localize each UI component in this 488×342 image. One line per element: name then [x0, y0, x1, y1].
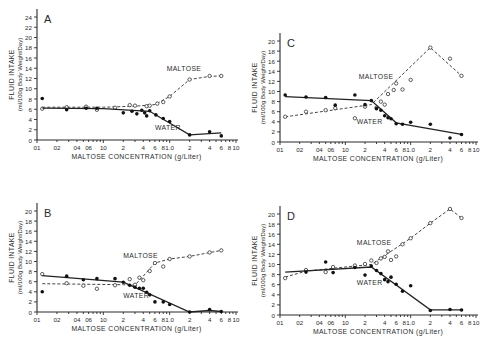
maltose-data-point	[208, 74, 211, 77]
water-data-point	[429, 309, 433, 313]
water-data-point	[40, 290, 44, 294]
x-tick-label: 10	[100, 316, 107, 323]
maltose-data-point	[138, 276, 141, 279]
x-tick-label: 01	[277, 319, 284, 326]
y-tick-label: 0	[272, 139, 276, 146]
x-tick-label: 06	[85, 144, 92, 151]
maltose-data-point	[448, 57, 451, 60]
fluid-intake-figure: A 024681012141618202224010204061024681.0…	[0, 0, 488, 342]
y-tick-label: 8	[272, 271, 276, 278]
maltose-data-point	[168, 95, 171, 98]
x-tick-label: 10	[233, 316, 240, 323]
maltose-data-point	[375, 261, 378, 264]
y-tick-label: 14	[25, 238, 32, 245]
x-tick-label: 2	[429, 319, 433, 326]
water-fit-line	[285, 267, 461, 310]
x-tick-label: 01	[34, 144, 41, 151]
y-tick-label: 24	[25, 14, 32, 21]
water-data-point	[333, 103, 337, 107]
y-tick-label: 12	[268, 251, 275, 258]
x-tick-label: 01	[34, 316, 41, 323]
y-tick-label: 0	[272, 312, 276, 319]
x-tick-label: 8	[468, 319, 472, 326]
maltose-data-point	[331, 265, 334, 268]
water-data-point	[383, 278, 387, 282]
y-tick-label: 10	[268, 261, 275, 268]
y-tick-label: 2	[272, 128, 276, 135]
water-data-point	[304, 95, 308, 99]
x-tick-label: 4	[208, 316, 212, 323]
y-tick-label: 18	[268, 48, 275, 55]
x-tick-label: 8	[468, 146, 472, 153]
maltose-data-point	[128, 277, 131, 280]
water-data-point	[154, 113, 158, 117]
maltose-data-point	[156, 102, 159, 105]
water-data-point	[161, 117, 165, 121]
x-tick-label: 4	[448, 146, 452, 153]
maltose-data-point	[409, 237, 412, 240]
water-data-point	[95, 277, 99, 281]
y-tick-label: 0	[29, 137, 33, 144]
x-tick-label: 10	[342, 146, 349, 153]
maltose-data-point	[162, 265, 165, 268]
y-tick-label: 6	[29, 106, 33, 113]
x-tick-label: 6	[394, 146, 398, 153]
water-data-point	[460, 133, 464, 137]
water-data-point	[208, 130, 212, 134]
water-data-point	[140, 108, 144, 112]
water-data-point	[386, 280, 390, 284]
x-tick-label: 02	[296, 146, 303, 153]
water-data-point	[145, 114, 149, 118]
x-tick-label: 2	[122, 144, 126, 151]
panel-title: B	[44, 207, 51, 219]
water-data-point	[122, 111, 126, 115]
y-axis-sublabel: (ml/100g Body Weight/Day)	[260, 224, 266, 297]
y-tick-label: 6	[29, 278, 33, 285]
y-axis-label: FLUID INTAKE	[8, 49, 15, 99]
maltose-data-point	[429, 221, 432, 224]
x-tick-label: 10	[233, 144, 240, 151]
water-data-point	[409, 121, 413, 125]
water-data-point	[353, 93, 357, 97]
maltose-data-point	[448, 207, 451, 210]
x-tick-label: 02	[296, 319, 303, 326]
maltose-data-point	[383, 103, 386, 106]
x-tick-label: 6	[460, 146, 464, 153]
y-tick-label: 20	[268, 211, 275, 218]
maltose-data-point	[220, 74, 223, 77]
water-data-point	[379, 108, 383, 112]
panel-title: C	[287, 37, 295, 49]
water-data-point	[394, 122, 398, 126]
y-tick-label: 20	[25, 34, 32, 41]
maltose-fit-line	[285, 48, 461, 117]
y-tick-label: 14	[25, 65, 32, 72]
water-data-point	[375, 269, 379, 273]
water-data-point	[331, 271, 335, 275]
y-tick-label: 14	[268, 68, 275, 75]
water-data-point	[40, 97, 44, 101]
y-tick-label: 18	[25, 44, 32, 51]
water-data-point	[409, 284, 413, 288]
y-tick-label: 0	[29, 309, 33, 316]
maltose-data-point	[429, 46, 432, 49]
maltose-data-point	[153, 261, 156, 264]
maltose-data-point	[304, 110, 307, 113]
water-data-point	[383, 114, 387, 118]
x-axis-label: MALTOSE CONCENTRATION (g/Liter)	[313, 328, 443, 336]
x-tick-label: 04	[73, 144, 80, 151]
y-tick-label: 10	[25, 85, 32, 92]
water-data-point	[161, 300, 165, 304]
maltose-data-point	[142, 278, 145, 281]
water-data-point	[379, 272, 383, 276]
x-tick-label: 2	[363, 319, 367, 326]
panel-D: D 02468101214161820010204061024681.02468…	[251, 206, 480, 336]
panel-B: B 02468101214161820010204061024681.02468…	[8, 203, 240, 333]
water-data-point	[113, 277, 117, 281]
y-tick-label: 18	[25, 218, 32, 225]
water-data-point	[219, 134, 223, 138]
water-data-point	[148, 109, 152, 113]
water-data-point	[143, 111, 147, 115]
maltose-data-point	[386, 250, 389, 253]
water-data-point	[208, 308, 212, 312]
maltose-data-point	[401, 243, 404, 246]
